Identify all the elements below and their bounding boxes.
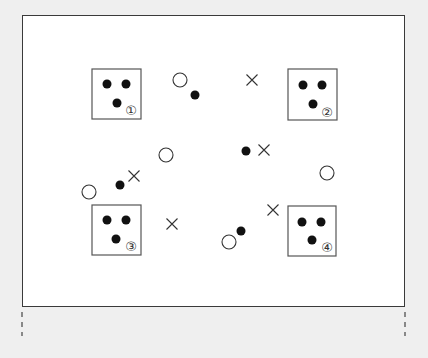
filled-dot-icon: [191, 91, 200, 100]
box-dot: [122, 80, 131, 89]
filled-dot-icon: [242, 147, 251, 156]
box-dot: [309, 100, 318, 109]
box-number-label: ②: [321, 105, 333, 120]
cross-icon: [247, 75, 258, 86]
filled-dot-icon: [237, 227, 246, 236]
open-circle-icon: [222, 235, 236, 249]
box-dot: [113, 99, 122, 108]
open-circle-icon: [173, 73, 187, 87]
box-dot: [308, 236, 317, 245]
box-dot: [298, 218, 307, 227]
cross-icon: [129, 171, 140, 182]
box-number-label: ③: [125, 239, 137, 254]
box-dot: [318, 81, 327, 90]
open-circle-icon: [159, 148, 173, 162]
diagram-canvas: ①②③④: [0, 0, 428, 358]
cross-icon: [268, 205, 279, 216]
filled-dot-icon: [116, 181, 125, 190]
box-dot: [103, 216, 112, 225]
open-circle-icon: [320, 166, 334, 180]
diagram-elements: ①②③④: [0, 0, 428, 358]
box-dot: [103, 80, 112, 89]
box-dot: [317, 218, 326, 227]
box-number-label: ④: [321, 240, 333, 255]
cross-icon: [259, 145, 270, 156]
box-dot: [299, 81, 308, 90]
box-dot: [122, 216, 131, 225]
box-dot: [112, 235, 121, 244]
box-number-label: ①: [125, 103, 137, 118]
cross-icon: [167, 219, 178, 230]
open-circle-icon: [82, 185, 96, 199]
